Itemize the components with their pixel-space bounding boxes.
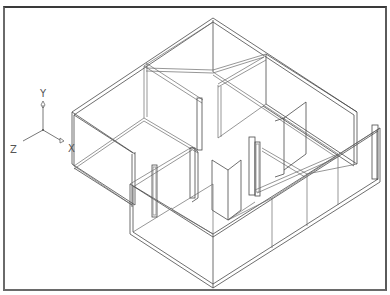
interior-walls (74, 22, 380, 248)
wireframe-model[interactable]: Y X Z (5, 8, 389, 293)
drawing-viewport[interactable]: Y X Z (3, 6, 387, 291)
outer-walls (72, 18, 380, 288)
ucs-z-label: Z (10, 144, 17, 155)
ucs-icon: Y X Z (10, 88, 75, 155)
ucs-y-label: Y (39, 88, 47, 99)
